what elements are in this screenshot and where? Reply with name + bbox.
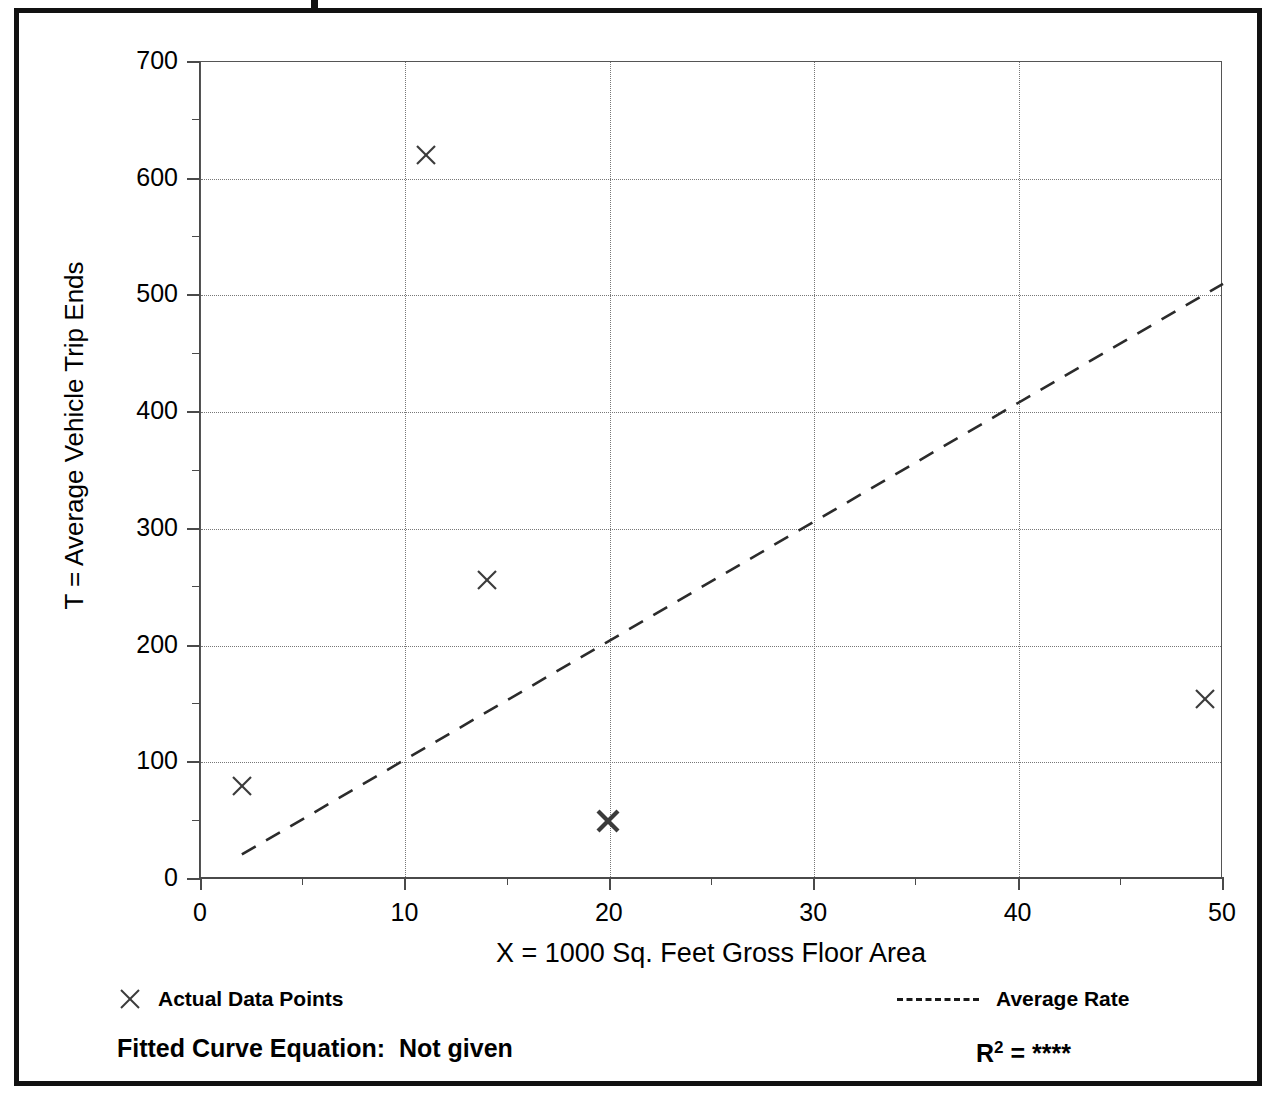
y-axis-tick-label: 200 <box>60 632 178 657</box>
x-axis-tick-label: 10 <box>364 898 444 926</box>
gridline-horizontal <box>201 762 1221 763</box>
x-axis-tick-label: 30 <box>773 898 853 926</box>
x-axis-tick-minor <box>507 877 508 885</box>
x-axis-tick-label: 40 <box>978 898 1058 926</box>
x-axis-tick-label: 20 <box>569 898 649 926</box>
gridline-horizontal <box>201 529 1221 530</box>
x-axis-tick-major <box>813 877 815 890</box>
gridline-vertical <box>405 62 406 877</box>
x-axis-tick-major <box>404 877 406 890</box>
x-axis-tick-label: 50 <box>1182 898 1262 926</box>
chart-footer: Fitted Curve Equation: Not given R2 = **… <box>0 1032 1276 1074</box>
x-axis-title: X = 1000 Sq. Feet Gross Floor Area <box>200 938 1222 969</box>
x-axis-tick-major <box>200 877 202 890</box>
data-point-marker <box>414 143 438 167</box>
data-point-marker <box>230 774 254 798</box>
y-axis-tick-label: 100 <box>60 748 178 773</box>
y-axis-tick-label: 700 <box>60 48 178 73</box>
y-axis-tick-label: 500 <box>60 281 178 306</box>
y-axis-tick-label: 600 <box>60 165 178 190</box>
r-squared-equals: = <box>1004 1039 1033 1067</box>
data-point-marker <box>595 808 621 834</box>
gridline-horizontal <box>201 412 1221 413</box>
x-axis-tick-minor <box>302 877 303 885</box>
gridline-horizontal <box>201 295 1221 296</box>
x-axis-tick-major <box>1222 877 1224 890</box>
data-point-marker <box>1193 687 1217 711</box>
gridline-horizontal <box>201 179 1221 180</box>
x-axis-tick-major <box>1018 877 1020 890</box>
x-axis-tick-minor <box>711 877 712 885</box>
y-axis-tick-label: 300 <box>60 515 178 540</box>
r-squared-exponent: 2 <box>994 1038 1003 1057</box>
chart-legend: Actual Data Points Average Rate <box>0 986 1276 1022</box>
x-marker-icon <box>117 986 143 1012</box>
fitted-curve-equation: Fitted Curve Equation: Not given <box>117 1032 513 1064</box>
data-point-marker <box>475 568 499 592</box>
dashed-line-icon <box>897 998 979 1001</box>
x-axis-tick-label: 0 <box>160 898 240 926</box>
gridline-vertical <box>814 62 815 877</box>
trendline-path <box>242 284 1223 855</box>
r-squared-number: **** <box>1032 1039 1071 1067</box>
y-axis-title: T = Average Vehicle Trip Ends <box>59 176 90 696</box>
chart-page: T = Average Vehicle Trip Ends 0100200300… <box>0 0 1276 1101</box>
x-axis-tick-major <box>609 877 611 890</box>
r-squared-prefix: R <box>976 1039 994 1067</box>
y-axis-tick-label: 0 <box>60 865 178 890</box>
x-axis-tick-minor <box>1120 877 1121 885</box>
gridline-vertical <box>1019 62 1020 877</box>
plot-area <box>200 61 1222 878</box>
x-axis-tick-minor <box>915 877 916 885</box>
r-squared-value: R2 = **** <box>976 1032 1071 1069</box>
average-rate-trendline <box>201 62 1223 879</box>
y-axis-tick-label: 400 <box>60 398 178 423</box>
legend-data-points-label: Actual Data Points <box>158 986 344 1012</box>
legend-average-rate-label: Average Rate <box>996 986 1129 1012</box>
gridline-horizontal <box>201 646 1221 647</box>
gridline-vertical <box>610 62 611 877</box>
